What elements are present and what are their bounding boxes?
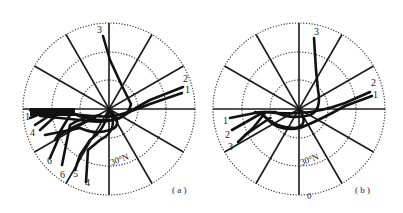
svg-text:2: 2: [183, 73, 188, 84]
svg-text:5: 5: [73, 168, 78, 179]
svg-text:1: 1: [185, 84, 190, 95]
panel-label-a: ( a ): [172, 185, 187, 195]
typhoon-tracks-b: [230, 38, 372, 142]
svg-text:1: 1: [373, 89, 378, 100]
panel-label-b: ( b ): [355, 185, 370, 195]
panel-b: 3 2 1 1 2 3 30°N 0 ( b ): [213, 23, 385, 201]
svg-text:4: 4: [30, 127, 35, 138]
svg-text:6: 6: [47, 155, 52, 166]
bottom-label-b: 0: [307, 191, 312, 201]
polar-diagram-figure: 3 2 1 1 4 6 6 5 4 30°N ( a ): [0, 0, 403, 213]
svg-text:2: 2: [371, 77, 376, 88]
svg-text:3: 3: [314, 26, 319, 37]
svg-text:3: 3: [97, 24, 102, 35]
svg-text:1: 1: [25, 111, 30, 122]
svg-text:2: 2: [225, 129, 230, 140]
svg-text:3: 3: [228, 141, 233, 152]
panel-a: 3 2 1 1 4 6 6 5 4 30°N ( a ): [23, 23, 195, 195]
svg-text:4: 4: [85, 177, 90, 188]
svg-text:6: 6: [60, 169, 65, 180]
svg-text:1: 1: [223, 115, 228, 126]
